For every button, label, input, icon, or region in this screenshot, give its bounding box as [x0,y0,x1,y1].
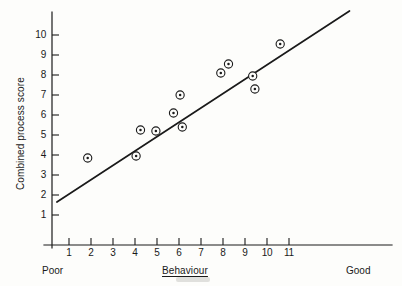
data-point [136,126,144,134]
x-tick-label: 4 [123,248,147,258]
y-tick-label: 9 [22,50,46,60]
y-tick-label: 7 [22,90,46,100]
x-tick-label: 6 [167,248,191,258]
regression-line [57,11,350,202]
data-point [152,127,160,135]
data-point [224,60,232,68]
y-tick-label: 5 [22,130,46,140]
x-axis-ticks [69,238,289,245]
data-point-center [251,75,254,78]
y-tick-label: 3 [22,170,46,180]
data-point [276,40,284,48]
data-point-center [155,130,158,133]
data-point-center [181,126,184,129]
x-tick-label: 8 [211,248,235,258]
x-tick-label: 7 [189,248,213,258]
scan-artifact [176,277,210,282]
data-point [217,69,225,77]
y-tick-label: 2 [22,190,46,200]
x-tick-label: 9 [233,248,257,258]
data-point [178,123,186,131]
data-point-center [227,63,230,66]
x-tick-label: 5 [145,248,169,258]
data-point-center [220,72,223,75]
y-tick-label: 10 [22,30,46,40]
data-point-center [172,112,175,115]
x-tick-label: 2 [79,248,103,258]
data-point [249,72,257,80]
data-point-center [254,88,257,91]
y-tick-label: 6 [22,110,46,120]
data-point-center [279,43,282,46]
y-tick-label: 1 [22,210,46,220]
x-tick-label: 10 [255,248,279,258]
y-axis-ticks [52,35,59,215]
plot-canvas [0,0,402,286]
data-point-center [179,94,182,97]
x-axis-anchor-high: Good [346,266,370,276]
data-point [169,109,177,117]
data-point [251,85,259,93]
y-tick-label: 4 [22,150,46,160]
x-tick-label: 1 [57,248,81,258]
axis-lines [44,12,392,248]
x-tick-label: 11 [277,248,301,258]
data-point [176,91,184,99]
x-tick-label: 3 [101,248,125,258]
chart-figure: Combined process score Behaviour Poor Go… [0,0,402,286]
data-point [132,152,140,160]
y-tick-label: 8 [22,70,46,80]
x-axis-anchor-low: Poor [42,266,63,276]
data-points [84,40,285,162]
data-point-center [139,129,142,132]
data-point [84,154,92,162]
data-point-center [135,155,138,158]
x-axis-title: Behaviour [162,266,208,276]
data-point-center [86,157,89,160]
